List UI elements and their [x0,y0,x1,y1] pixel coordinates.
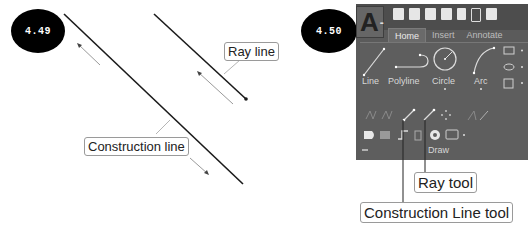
ray-tool-callout: Ray tool [414,172,477,193]
construction-line-tool-callout: Construction Line tool [360,202,513,223]
callout-leaders [0,0,528,229]
